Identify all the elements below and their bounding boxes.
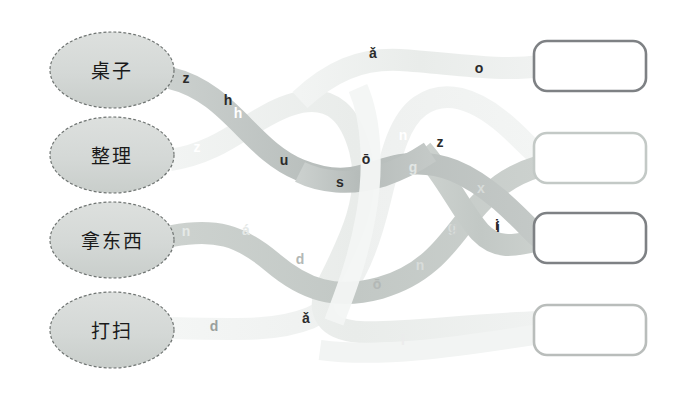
prompt-label-4: 打扫 xyxy=(91,320,133,342)
ribbon-letter: é xyxy=(388,90,396,106)
prompt-label-1: 桌子 xyxy=(91,60,133,82)
worksheet-canvas: zhusōzizhǎoǎlnádōngxidénggi 桌子 整理 拿东西 打扫 xyxy=(0,0,684,393)
ribbon-letter: d xyxy=(296,251,305,267)
ribbon-letter: n xyxy=(399,127,408,143)
answer-box-group xyxy=(534,41,646,355)
answer-box-1[interactable] xyxy=(534,41,646,91)
ribbon-letter: g xyxy=(450,219,459,235)
prompt-ellipse-4[interactable]: 打扫 xyxy=(50,292,174,368)
ribbon-letter: n xyxy=(416,257,425,273)
answer-box-outline xyxy=(534,41,646,91)
prompt-ellipse-2[interactable]: 整理 xyxy=(50,117,174,193)
ribbon-letter: z xyxy=(437,134,444,150)
ribbon-letter: z xyxy=(183,70,190,86)
answer-box-outline xyxy=(534,305,646,355)
prompt-group: 桌子 整理 拿东西 打扫 xyxy=(50,32,174,368)
ribbon-letter: o xyxy=(475,60,484,76)
ribbon-letter: h xyxy=(234,105,243,121)
prompt-label-3: 拿东西 xyxy=(81,230,144,252)
ribbon-letter: u xyxy=(280,152,289,168)
ribbon-letter: h xyxy=(224,92,233,108)
ribbon-letter: g xyxy=(409,159,418,175)
answer-box-3[interactable] xyxy=(534,213,646,263)
ribbon-letter: l xyxy=(258,275,262,291)
answer-box-4[interactable] xyxy=(534,305,646,355)
ribbon-letter: n xyxy=(182,223,191,239)
ribbon-letter: ō xyxy=(362,151,371,167)
ribbon-letter: i xyxy=(496,219,500,235)
ribbon-letter: ǎ xyxy=(302,310,310,326)
ribbon-letter: ǎ xyxy=(369,45,377,61)
ribbon-letter: ō xyxy=(373,276,382,292)
ribbon-letter: z xyxy=(194,139,201,155)
prompt-label-2: 整理 xyxy=(91,145,133,167)
worksheet-page: zhusōzizhǎoǎlnádōngxidénggi 桌子 整理 拿东西 打扫 xyxy=(0,0,684,393)
ribbon-letter: d xyxy=(210,318,219,334)
ribbon-letter: i xyxy=(401,332,405,348)
prompt-ellipse-1[interactable]: 桌子 xyxy=(50,32,174,108)
answer-box-outline xyxy=(534,213,646,263)
answer-box-2[interactable] xyxy=(534,133,646,183)
answer-box-outline xyxy=(534,133,646,183)
ribbon-letter: x xyxy=(477,180,485,196)
prompt-ellipse-3[interactable]: 拿东西 xyxy=(50,202,174,278)
ribbon-letter: s xyxy=(336,174,344,190)
ribbon-letter: á xyxy=(242,222,250,238)
